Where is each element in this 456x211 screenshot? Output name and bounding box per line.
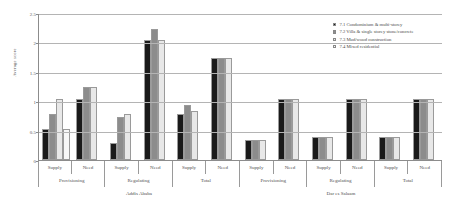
x-axis-group-label: Regulating [307, 174, 374, 187]
x-axis-tick-label: Need [274, 161, 308, 174]
bar [427, 99, 434, 160]
x-axis-tick-label: Supply [173, 161, 207, 174]
bar [177, 114, 184, 160]
y-tick-label: 0 [34, 159, 37, 164]
x-axis-group-label: Regulating [105, 174, 172, 187]
x-axis-tick-label: Need [206, 161, 240, 174]
bar [393, 137, 400, 160]
bar-group [241, 14, 275, 160]
bar [252, 140, 259, 160]
legend-item: 7.2 Villa & single storey stone/concrete [333, 29, 413, 34]
legend-label: 7.4 Mixed residential [339, 44, 379, 49]
x-axis-tick-label: Need [408, 161, 442, 174]
bar [413, 99, 420, 160]
bar [90, 87, 97, 160]
y-tick-label: 1 [34, 100, 37, 105]
bar-group [174, 14, 208, 160]
bar [278, 99, 285, 160]
x-axis-group-label: Total [173, 174, 240, 187]
bar-group [39, 14, 73, 160]
legend-swatch-icon [333, 38, 336, 41]
legend-label: 7.2 Villa & single storey stone/concrete [339, 29, 413, 34]
bar [420, 99, 427, 160]
x-axis-tick-label: Supply [38, 161, 72, 174]
bar [386, 137, 393, 160]
legend-item: 7.1 Condominium & multi-storey [333, 22, 413, 27]
x-axis-tick-label: Supply [375, 161, 409, 174]
y-tick-mark [36, 73, 39, 74]
x-axis-tick-label: Need [139, 161, 173, 174]
bar [326, 137, 333, 160]
gridline [39, 132, 442, 133]
gridline [39, 14, 442, 15]
x-axis-city-label: Dar es Salaam [240, 187, 442, 200]
bar [151, 29, 158, 160]
x-axis-tick-label: Supply [105, 161, 139, 174]
y-axis-title: Average score [12, 28, 17, 98]
y-tick-mark [36, 132, 39, 133]
x-axis-group-label: Provisioning [38, 174, 105, 187]
legend-swatch-icon [333, 45, 336, 48]
x-axis-group-label: Total [375, 174, 442, 187]
bar [63, 129, 70, 160]
bar [319, 137, 326, 160]
legend-label: 7.1 Condominium & multi-storey [339, 22, 402, 27]
bar-group [207, 14, 241, 160]
bar [259, 140, 266, 160]
y-tick-label: 0.5 [30, 129, 36, 134]
x-axis-tick-label: Need [341, 161, 375, 174]
bar [292, 99, 299, 160]
bar-group [106, 14, 140, 160]
x-axis-category-row: ProvisioningRegulatingTotalProvisioningR… [38, 174, 442, 187]
y-tick-mark [36, 14, 39, 15]
bar [144, 40, 151, 160]
bar-group [73, 14, 107, 160]
bar [76, 99, 83, 160]
x-axis-group-label: Provisioning [240, 174, 307, 187]
x-axis-city-row: Addis AbabaDar es Salaam [38, 187, 442, 200]
legend-label: 7.3 Mud/wood construction [339, 37, 391, 42]
legend-swatch-icon [333, 30, 336, 33]
bar [312, 137, 319, 160]
gridline [39, 73, 442, 74]
bar [110, 143, 117, 160]
legend-item: 7.3 Mud/wood construction [333, 37, 413, 42]
bar [117, 117, 124, 160]
bar [42, 129, 49, 160]
bar [158, 40, 165, 160]
x-axis-tick-label: Need [72, 161, 106, 174]
bar-group [409, 14, 443, 160]
bar [83, 87, 90, 160]
x-axis: SupplyNeedSupplyNeedSupplyNeedSupplyNeed… [38, 161, 442, 211]
y-tick-label: 2.5 [30, 12, 36, 17]
legend-swatch-icon [333, 23, 336, 26]
bar [285, 99, 292, 160]
bar [353, 99, 360, 160]
y-tick-label: 2 [34, 41, 37, 46]
legend: 7.1 Condominium & multi-storey7.2 Villa … [333, 22, 413, 49]
bar [346, 99, 353, 160]
bar [49, 114, 56, 160]
bar [360, 99, 367, 160]
y-tick-label: 1.5 [30, 70, 36, 75]
x-axis-tick-label: Supply [240, 161, 274, 174]
x-axis-city-label: Addis Ababa [38, 187, 240, 200]
bar-group [140, 14, 174, 160]
bar [124, 114, 131, 160]
x-axis-leaf-row: SupplyNeedSupplyNeedSupplyNeedSupplyNeed… [38, 161, 442, 174]
gridline [39, 102, 442, 103]
bar [379, 137, 386, 160]
bar-group [275, 14, 309, 160]
legend-item: 7.4 Mixed residential [333, 44, 413, 49]
bar [245, 140, 252, 160]
bar [191, 111, 198, 160]
x-axis-tick-label: Supply [307, 161, 341, 174]
bar [56, 99, 63, 160]
bar-chart: Average score 00.511.522.5 SupplyNeedSup… [0, 0, 456, 211]
